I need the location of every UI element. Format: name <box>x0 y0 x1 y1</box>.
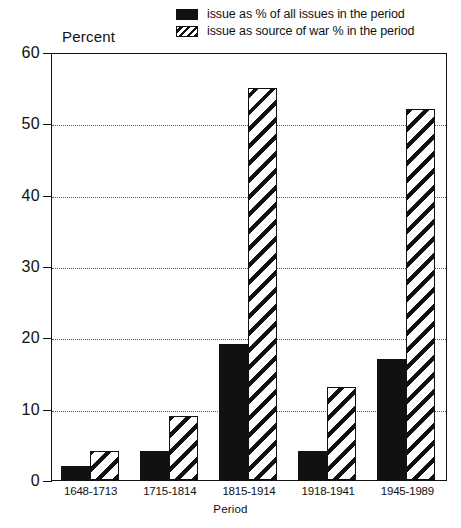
x-axis-tick-label: 1715-1814 <box>130 486 209 498</box>
plot-area <box>51 53 447 481</box>
y-axis-tick-label: 10 <box>0 402 40 418</box>
legend-item-all-issues: issue as % of all issues in the period <box>176 6 461 23</box>
y-axis-tick-label: 0 <box>0 473 40 489</box>
y-axis-tick-label: 40 <box>0 188 40 204</box>
bar-all-issues <box>377 359 406 480</box>
legend-label-source-of-war: issue as source of war % in the period <box>207 25 414 38</box>
legend-item-source-of-war: issue as source of war % in the period <box>176 23 461 40</box>
x-axis-tick-label: 1918-1941 <box>289 486 368 498</box>
y-axis-tick-label: 60 <box>0 45 40 61</box>
legend-swatch-solid-icon <box>176 9 198 20</box>
y-axis-tick-label: 50 <box>0 116 40 132</box>
legend-label-all-issues: issue as % of all issues in the period <box>207 8 405 21</box>
chart-legend: issue as % of all issues in the period i… <box>176 6 461 40</box>
y-axis-tick-label: 20 <box>0 330 40 346</box>
bar-source-of-war <box>327 387 356 480</box>
bar-source-of-war <box>406 109 435 480</box>
bar-all-issues <box>298 451 327 480</box>
y-axis-title: Percent <box>62 28 115 45</box>
bar-source-of-war <box>90 451 119 480</box>
bar-source-of-war <box>169 416 198 480</box>
x-axis-tick-label: 1945-1989 <box>368 486 447 498</box>
x-axis-tick-label: 1648-1713 <box>51 486 130 498</box>
legend-swatch-hatch-icon <box>176 26 198 37</box>
bar-source-of-war <box>248 88 277 480</box>
x-axis-tick-label: 1815-1914 <box>209 486 288 498</box>
y-axis-tick <box>43 481 52 482</box>
bars-layer <box>52 54 446 480</box>
bar-all-issues <box>219 344 248 480</box>
bar-chart: issue as % of all issues in the period i… <box>0 0 461 528</box>
x-axis-title: Period <box>0 503 461 515</box>
y-axis-tick-label: 30 <box>0 259 40 275</box>
bar-all-issues <box>140 451 169 480</box>
bar-all-issues <box>61 466 90 480</box>
